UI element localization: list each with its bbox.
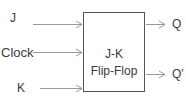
block-title-line1: J-K [84, 46, 144, 63]
output-label-q-prime: Q' [172, 68, 184, 80]
jk-flip-flop-block: J-K Flip-Flop [83, 12, 145, 92]
output-label-q: Q [172, 18, 181, 30]
input-label-k: K [17, 82, 25, 94]
input-label-clock: Clock [1, 47, 34, 59]
block-title-line2: Flip-Flop [84, 63, 144, 80]
input-label-j: J [10, 12, 16, 24]
